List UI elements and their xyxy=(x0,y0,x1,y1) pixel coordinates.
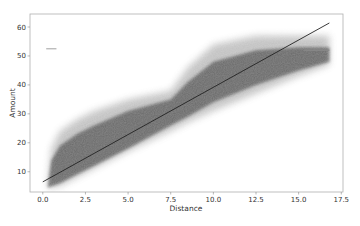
y-tick-label: 50 xyxy=(17,52,26,60)
scatter-texture xyxy=(30,14,343,192)
y-axis-ticks: 102030405060 xyxy=(17,24,30,177)
x-axis-label: Distance xyxy=(170,204,203,213)
plot-area xyxy=(30,14,343,192)
scatter-chart: 0.02.55.07.510.012.515.017.5 10203040506… xyxy=(0,0,360,226)
y-axis-label: Amount xyxy=(8,88,17,118)
x-tick-label: 10.0 xyxy=(206,196,222,204)
y-tick-label: 20 xyxy=(17,139,26,147)
x-tick-label: 17.5 xyxy=(333,196,349,204)
x-tick-label: 7.5 xyxy=(165,196,176,204)
x-tick-label: 0.0 xyxy=(37,196,48,204)
y-tick-label: 30 xyxy=(17,110,26,118)
x-tick-label: 15.0 xyxy=(291,196,307,204)
y-tick-label: 60 xyxy=(17,24,26,32)
y-tick-label: 40 xyxy=(17,81,26,89)
x-tick-label: 5.0 xyxy=(123,196,134,204)
y-tick-label: 10 xyxy=(17,168,26,176)
x-tick-label: 2.5 xyxy=(80,196,91,204)
x-axis-ticks: 0.02.55.07.510.012.515.017.5 xyxy=(37,192,349,204)
x-tick-label: 12.5 xyxy=(248,196,264,204)
